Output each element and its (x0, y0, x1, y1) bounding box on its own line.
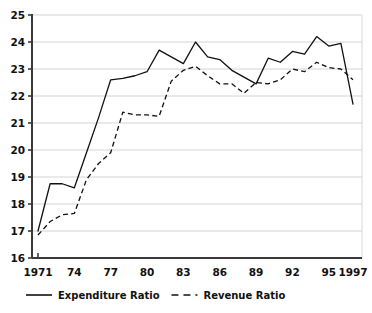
y-tick-label-23: 23 (10, 63, 25, 75)
data-series (38, 37, 353, 235)
x-tick-label-1971: 1971 (23, 266, 52, 278)
x-tick-label-83: 83 (176, 266, 191, 278)
x-tick-label-92: 92 (285, 266, 300, 278)
x-tick-label-77: 77 (103, 266, 118, 278)
y-tick-label-16: 16 (10, 252, 25, 264)
y-tick-label-24: 24 (10, 36, 25, 48)
y-axis-tick-labels: 16171819202122232425 (10, 9, 25, 264)
series-line-expenditure-ratio (38, 37, 353, 231)
y-tick-label-21: 21 (10, 117, 25, 129)
x-axis-tick-labels: 197174778083868992951997 (23, 266, 367, 278)
series-line-revenue-ratio (38, 62, 353, 235)
chart-legend: Expenditure RatioRevenue Ratio (26, 290, 285, 301)
line-chart: 16171819202122232425 1971747780838689929… (0, 0, 372, 313)
y-tick-label-20: 20 (10, 144, 25, 156)
gridlines (32, 15, 362, 231)
x-tick-label-86: 86 (212, 266, 227, 278)
x-tick-label-80: 80 (140, 266, 155, 278)
y-tick-label-25: 25 (10, 9, 25, 21)
x-tick-label-74: 74 (67, 266, 82, 278)
y-tick-label-18: 18 (10, 198, 25, 210)
y-tick-label-19: 19 (10, 171, 25, 183)
x-tick-label-89: 89 (249, 266, 264, 278)
y-tick-label-22: 22 (10, 90, 25, 102)
axes (28, 14, 362, 258)
x-tick-label-1997: 1997 (338, 266, 367, 278)
legend-label-expenditure-ratio: Expenditure Ratio (58, 290, 160, 301)
y-tick-label-17: 17 (10, 225, 25, 237)
legend-label-revenue-ratio: Revenue Ratio (203, 290, 285, 301)
x-tick-label-95: 95 (321, 266, 336, 278)
chart-canvas: 16171819202122232425 1971747780838689929… (0, 0, 372, 313)
